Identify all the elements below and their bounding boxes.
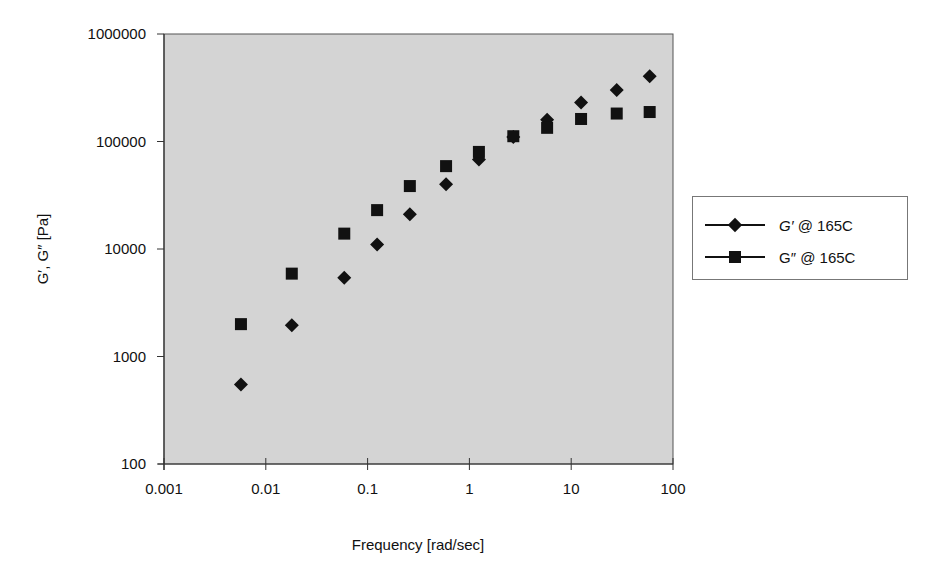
square-marker-icon bbox=[404, 180, 416, 192]
plot-area bbox=[164, 34, 673, 464]
square-marker-icon bbox=[286, 268, 298, 280]
x-tick-label: 10 bbox=[563, 480, 580, 497]
square-marker-icon bbox=[611, 108, 623, 120]
square-marker-icon bbox=[371, 204, 383, 216]
chart-canvas: 0.0010.010.11101001001000100001000001000… bbox=[0, 0, 931, 579]
square-marker-icon bbox=[729, 251, 741, 263]
y-tick-label: 1000 bbox=[113, 348, 146, 365]
legend-line bbox=[705, 245, 765, 269]
legend-label: G″ @ 165C bbox=[779, 249, 855, 266]
legend-line bbox=[705, 213, 765, 237]
square-marker-icon bbox=[338, 228, 350, 240]
x-tick-label: 0.1 bbox=[357, 480, 378, 497]
square-marker-icon bbox=[507, 130, 519, 142]
square-marker-icon bbox=[575, 113, 587, 125]
x-tick-label: 0.001 bbox=[145, 480, 183, 497]
square-marker-icon bbox=[541, 122, 553, 134]
legend-label: G′ @ 165C bbox=[779, 217, 853, 234]
y-tick-label: 10000 bbox=[104, 240, 146, 257]
x-axis-title: Frequency [rad/sec] bbox=[352, 536, 485, 553]
legend: G′ @ 165C G″ @ 165C bbox=[692, 196, 908, 280]
y-tick-label: 100 bbox=[121, 455, 146, 472]
x-tick-label: 100 bbox=[660, 480, 685, 497]
legend-item-g-prime: G′ @ 165C bbox=[693, 213, 853, 237]
square-marker-icon bbox=[235, 318, 247, 330]
legend-item-g-double-prime: G″ @ 165C bbox=[693, 245, 855, 269]
x-tick-label: 0.01 bbox=[251, 480, 280, 497]
y-axis-title: G′, G″ [Pa] bbox=[34, 214, 51, 285]
y-tick-label: 1000000 bbox=[88, 25, 146, 42]
y-tick-label: 100000 bbox=[96, 133, 146, 150]
diamond-marker-icon bbox=[728, 218, 742, 232]
square-marker-icon bbox=[473, 146, 485, 158]
square-marker-icon bbox=[440, 160, 452, 172]
x-tick-label: 1 bbox=[465, 480, 473, 497]
square-marker-icon bbox=[644, 106, 656, 118]
